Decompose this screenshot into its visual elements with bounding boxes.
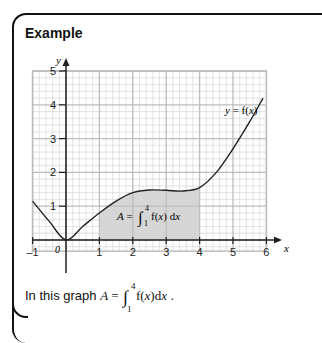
integral-sign: ∫41 [123,287,128,308]
svg-text:5: 5 [230,246,236,258]
upper-limit: 4 [131,281,136,291]
svg-text:4: 4 [145,204,149,213]
svg-text:4: 4 [50,99,56,111]
svg-text:3: 3 [163,246,169,258]
svg-text:4: 4 [197,246,203,258]
curve-label: y = f(x) [224,104,258,117]
y-axis-label: y [55,54,61,66]
caption-text: In this graph [25,288,100,303]
svg-text:1: 1 [50,200,56,212]
caption: In this graph A = ∫41f(x)dx . [25,287,174,308]
svg-text:f(x) dx: f(x) dx [151,210,180,223]
x-axis-label: x [283,242,289,254]
caption-var: A [100,288,108,303]
x-axis-arrow-icon [274,237,282,244]
caption-eq: = [108,288,122,303]
integrand: f(x)dx [136,288,167,303]
lower-limit: 1 [127,304,132,314]
svg-text:6: 6 [263,246,269,258]
svg-text:2: 2 [130,246,136,258]
origin-label: 0 [55,244,60,255]
svg-text:3: 3 [50,133,56,145]
svg-text:1: 1 [144,219,148,228]
svg-text:–1: –1 [26,246,38,258]
caption-suffix: . [167,288,174,303]
svg-text:5: 5 [50,65,56,77]
svg-text:2: 2 [50,166,56,178]
y-axis-arrow-icon [63,58,70,66]
integral-graph: –112345612345 x y 0 y = f(x) A = ∫ 4 1 f… [0,0,306,290]
svg-text:A =: A = [116,210,133,222]
svg-text:1: 1 [96,246,102,258]
